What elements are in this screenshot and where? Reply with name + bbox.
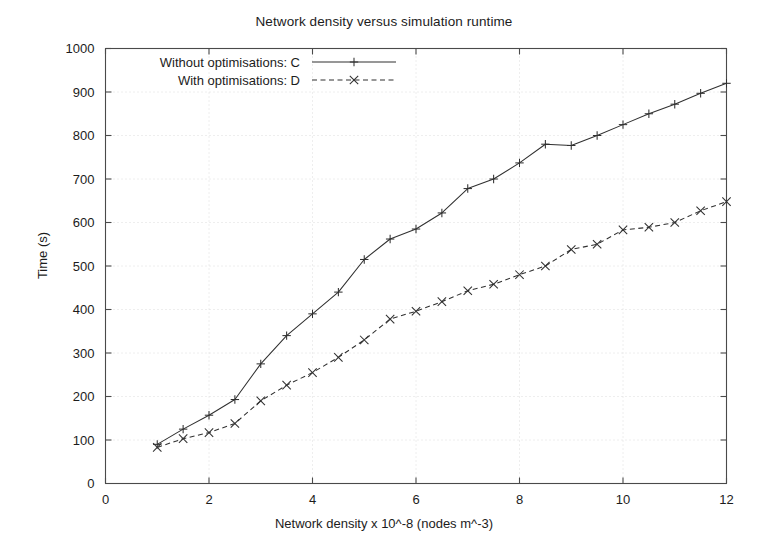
x-tick-label: 4 (309, 492, 316, 507)
data-series-layer (153, 79, 731, 451)
gridlines (106, 49, 727, 484)
legend-label-2: With optimisations: D (178, 73, 300, 88)
x-tick-label: 0 (102, 492, 109, 507)
x-tick-label: 10 (616, 492, 630, 507)
x-axis-ticks: 024681012 (102, 49, 734, 507)
y-axis-ticks: 01002003004005006007008009001000 (66, 41, 727, 491)
plot-area: 024681012 010020030040050060070080090010… (0, 0, 768, 551)
y-tick-label: 0 (87, 476, 94, 491)
chart-figure: Network density versus simulation runtim… (0, 0, 768, 551)
plot-frame (106, 49, 727, 484)
x-axis-label: Network density x 10^-8 (nodes m^-3) (0, 516, 768, 531)
legend-label-1: Without optimisations: C (160, 55, 300, 70)
series-line-1 (157, 83, 726, 444)
y-tick-label: 100 (73, 433, 95, 448)
y-tick-label: 600 (73, 215, 95, 230)
x-tick-label: 6 (412, 492, 419, 507)
y-tick-label: 800 (73, 128, 95, 143)
series-line-2 (157, 202, 726, 448)
y-tick-label: 500 (73, 259, 95, 274)
x-tick-label: 2 (205, 492, 212, 507)
y-tick-label: 1000 (66, 41, 95, 56)
y-tick-label: 900 (73, 85, 95, 100)
y-tick-label: 200 (73, 389, 95, 404)
x-tick-label: 12 (719, 492, 733, 507)
y-tick-label: 700 (73, 172, 95, 187)
y-tick-label: 300 (73, 346, 95, 361)
y-tick-label: 400 (73, 302, 95, 317)
x-tick-label: 8 (516, 492, 523, 507)
chart-legend: Without optimisations: CWith optimisatio… (160, 55, 396, 88)
y-axis-label: Time (s) (35, 196, 50, 316)
plot-border (106, 49, 727, 484)
